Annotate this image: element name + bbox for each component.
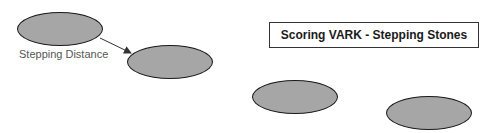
diagram-title: Scoring VARK - Stepping Stones — [269, 22, 479, 48]
stepping-distance-label: Stepping Distance — [19, 48, 108, 60]
stepping-distance-arrow — [0, 0, 493, 133]
